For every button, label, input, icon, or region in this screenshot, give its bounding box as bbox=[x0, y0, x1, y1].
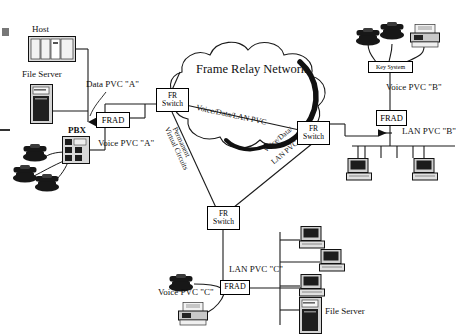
frad-c[interactable]: FRAD bbox=[220, 280, 250, 295]
fax-c-icon bbox=[178, 302, 208, 326]
fr-switch-left-line2: Switch bbox=[157, 100, 188, 108]
fr-switch-bottom-line2: Switch bbox=[208, 218, 239, 226]
key-system-box[interactable]: Key System bbox=[368, 61, 413, 73]
file-server-a-label: File Server bbox=[22, 70, 62, 79]
workstation-b2-icon bbox=[412, 158, 438, 182]
host-label: Host bbox=[32, 25, 49, 34]
lan-pvc-c-label: LAN PVC "C" bbox=[229, 265, 283, 274]
voice-pvc-a-label: Voice PVC "A" bbox=[98, 139, 154, 148]
host-icon bbox=[28, 36, 76, 62]
workstation-c3-icon bbox=[299, 274, 325, 298]
workstation-c2-icon bbox=[319, 249, 345, 273]
phone-a1-icon bbox=[22, 142, 48, 162]
pbx-icon bbox=[62, 136, 90, 164]
workstation-c1-icon bbox=[299, 226, 325, 250]
file-server-c-label: File Server bbox=[325, 307, 365, 316]
cloud-label: Frame Relay Network bbox=[196, 63, 307, 76]
frad-b[interactable]: FRAD bbox=[376, 110, 407, 126]
phone-b1-icon bbox=[355, 26, 381, 46]
scan-artifact-top bbox=[2, 28, 9, 36]
fr-switch-right[interactable]: FR Switch bbox=[297, 121, 330, 145]
voice-pvc-c-label: Voice PVC "C" bbox=[158, 288, 214, 297]
scan-artifact-bottom bbox=[0, 129, 10, 131]
voice-pvc-b-label: Voice PVC "B" bbox=[386, 83, 442, 92]
data-pvc-a-label: Data PVC "A" bbox=[86, 80, 139, 89]
phone-a3-icon bbox=[34, 172, 60, 192]
file-server-c-icon bbox=[299, 297, 322, 334]
fr-switch-right-line2: Switch bbox=[298, 133, 329, 141]
fr-switch-left[interactable]: FR Switch bbox=[156, 88, 189, 112]
frad-a[interactable]: FRAD bbox=[96, 112, 130, 128]
workstation-b1-icon bbox=[346, 158, 372, 182]
phone-b2-icon bbox=[379, 20, 405, 40]
fr-switch-bottom[interactable]: FR Switch bbox=[207, 206, 240, 230]
lan-pvc-b-label: LAN PVC "B" bbox=[402, 127, 456, 136]
fax-b-icon bbox=[410, 24, 440, 48]
network-diagram-canvas: FR Switch FR Switch FR Switch FRAD FRAD … bbox=[0, 0, 468, 335]
pbx-label: PBX bbox=[68, 126, 86, 135]
file-server-a-icon bbox=[30, 84, 53, 124]
